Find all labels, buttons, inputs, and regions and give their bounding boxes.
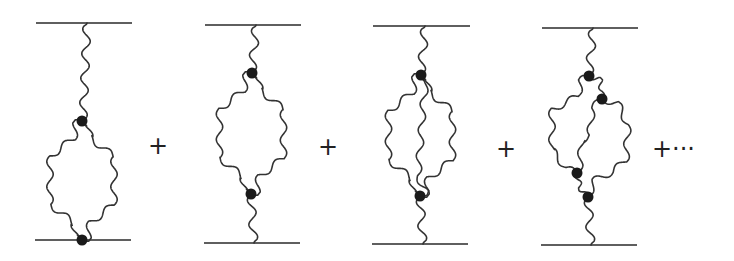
vertex-dot (572, 168, 583, 179)
vertex-dot (247, 68, 258, 79)
vertex-dot (583, 192, 594, 203)
diagram-3 (372, 26, 470, 244)
vertex-dot (584, 71, 595, 82)
wavy-propagator (250, 25, 259, 73)
wavy-loop-left (549, 75, 589, 173)
diagram-4 (541, 28, 638, 245)
diagram-1 (35, 23, 132, 246)
plus-operator: + (318, 133, 338, 161)
wavy-loop-left (216, 72, 252, 194)
diagram-2 (204, 25, 301, 243)
vertex-dot (246, 189, 257, 200)
wavy-loop-right (420, 75, 456, 197)
feynman-diagram-series: + + + +··· (0, 0, 734, 261)
wavy-loop-left (385, 74, 421, 196)
plus-operator: + (496, 135, 516, 163)
wavy-loop-right (82, 121, 117, 241)
plus-ellipsis-operator: +··· (652, 135, 695, 163)
wavy-propagator (587, 28, 596, 76)
wavy-propagator (584, 197, 594, 245)
wavy-loop-left (47, 120, 82, 240)
wavy-loop-right (251, 73, 287, 195)
vertex-dot (416, 70, 427, 81)
wavy-loop-inner (577, 99, 602, 173)
wavy-propagator (80, 23, 90, 121)
vertex-dot (415, 191, 426, 202)
wavy-propagator (416, 196, 426, 244)
wavy-propagator (419, 26, 428, 75)
vertex-dot (77, 116, 88, 127)
wavy-propagator (247, 194, 257, 243)
vertex-dot (77, 235, 88, 246)
plus-operator: + (148, 132, 168, 160)
vertex-dot (597, 94, 608, 105)
